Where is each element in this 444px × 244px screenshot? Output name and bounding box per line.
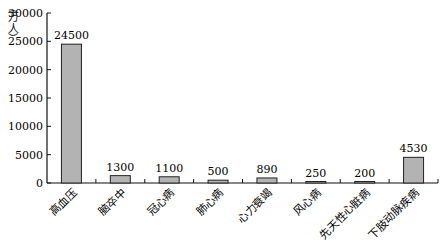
x-tick-label: 肺心病 — [193, 185, 226, 218]
data-label: 500 — [208, 165, 229, 178]
bar — [404, 157, 424, 183]
bar — [110, 176, 130, 183]
data-label: 250 — [305, 167, 326, 180]
bar — [355, 182, 375, 184]
y-tick-label: 15000 — [8, 92, 43, 105]
bar — [257, 178, 277, 183]
x-tick-label: 心力衰竭 — [234, 185, 275, 226]
bar — [61, 44, 81, 183]
x-tick-label: 脑卒中 — [95, 185, 128, 218]
bar — [306, 182, 326, 184]
bar-chart: ︵ 万人 ︶ 050001000015000200002500030000245… — [0, 0, 444, 244]
x-tick-label: 先天性心脏病 — [316, 185, 373, 242]
data-label: 1300 — [106, 161, 134, 174]
data-label: 4530 — [400, 142, 428, 155]
data-label: 1100 — [155, 162, 183, 175]
bar — [208, 180, 228, 183]
x-tick-label: 冠心病 — [144, 185, 177, 218]
x-tick-label: 下肢动脉疾病 — [365, 185, 422, 242]
y-tick-label: 10000 — [8, 120, 43, 133]
data-label: 200 — [354, 167, 375, 180]
y-tick-label: 5000 — [15, 149, 43, 162]
bar — [159, 177, 179, 183]
y-tick-label: 0 — [36, 177, 43, 190]
chart-plot-area: 05000100001500020000250003000024500高血压13… — [0, 0, 444, 244]
y-axis-label: ︵ 万人 ︶ — [6, 6, 20, 42]
x-tick-label: 风心病 — [291, 185, 324, 218]
data-label: 890 — [256, 163, 277, 176]
y-tick-label: 20000 — [8, 64, 43, 77]
x-tick-label: 高血压 — [46, 185, 79, 218]
data-label: 24500 — [54, 29, 89, 42]
